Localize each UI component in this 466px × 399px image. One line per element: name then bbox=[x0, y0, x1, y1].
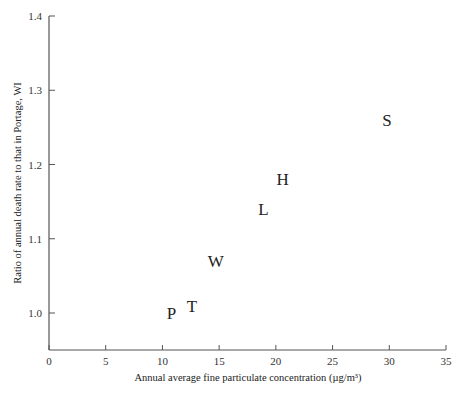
y-tick-label: 1.3 bbox=[28, 84, 42, 96]
y-tick-label: 1.2 bbox=[28, 159, 42, 171]
data-point-w: W bbox=[208, 252, 225, 271]
y-axis-label: Ratio of annual death rate to that in Po… bbox=[12, 82, 23, 284]
x-axis-label: Annual average fine particulate concentr… bbox=[135, 372, 362, 384]
y-tick-label: 1.0 bbox=[28, 307, 42, 319]
data-point-l: L bbox=[258, 200, 268, 219]
x-tick-label: 5 bbox=[103, 355, 109, 367]
x-tick-label: 0 bbox=[46, 355, 52, 367]
x-tick-label: 15 bbox=[214, 355, 226, 367]
y-tick-label: 1.4 bbox=[28, 10, 42, 22]
x-tick-label: 30 bbox=[384, 355, 396, 367]
x-tick-label: 35 bbox=[441, 355, 453, 367]
data-points: PTWLHS bbox=[167, 111, 392, 323]
x-tick-label: 10 bbox=[157, 355, 169, 367]
axes: 051015202530351.01.11.21.31.4 bbox=[28, 10, 452, 367]
x-tick-label: 25 bbox=[327, 355, 339, 367]
y-tick-label: 1.1 bbox=[28, 233, 42, 245]
data-point-p: P bbox=[167, 304, 176, 323]
x-tick-label: 20 bbox=[270, 355, 282, 367]
scatter-chart: 051015202530351.01.11.21.31.4 PTWLHS Ann… bbox=[0, 0, 466, 399]
data-point-t: T bbox=[187, 297, 198, 316]
data-point-s: S bbox=[382, 111, 391, 130]
data-point-h: H bbox=[277, 170, 289, 189]
